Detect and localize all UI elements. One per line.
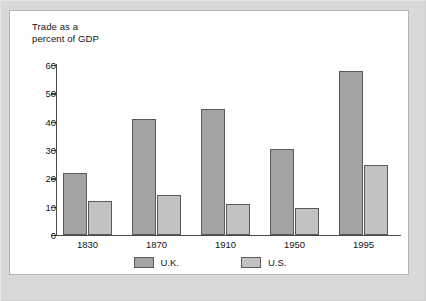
figure-frame: Trade as a percent of GDP 0102030405060 … bbox=[0, 0, 426, 301]
x-tick-label-1995: 1995 bbox=[353, 239, 374, 250]
legend-swatch-icon bbox=[241, 257, 261, 268]
bar-series-layer bbox=[10, 11, 410, 235]
x-tick-label-1910: 1910 bbox=[215, 239, 236, 250]
bar-uk-1995 bbox=[339, 71, 363, 235]
chart-panel: Trade as a percent of GDP 0102030405060 … bbox=[9, 10, 409, 275]
bar-uk-1910 bbox=[201, 109, 225, 235]
x-tick-label-1870: 1870 bbox=[146, 239, 167, 250]
legend-swatch-icon bbox=[134, 257, 154, 268]
legend-entry-uk: U.K. bbox=[134, 257, 179, 268]
chart-legend: U.K.U.S. bbox=[10, 257, 410, 268]
x-tick-label-1830: 1830 bbox=[77, 239, 98, 250]
x-tick-label-1950: 1950 bbox=[284, 239, 305, 250]
legend-label: U.S. bbox=[268, 257, 286, 268]
bar-us-1950 bbox=[295, 208, 319, 235]
bar-us-1995 bbox=[364, 165, 388, 235]
bar-uk-1870 bbox=[132, 119, 156, 235]
plot-area: 0102030405060 18301870191019501995 bbox=[10, 11, 410, 276]
legend-entry-us: U.S. bbox=[241, 257, 286, 268]
bar-us-1910 bbox=[226, 204, 250, 235]
bar-uk-1830 bbox=[63, 173, 87, 235]
legend-label: U.K. bbox=[161, 257, 179, 268]
bar-uk-1950 bbox=[270, 149, 294, 235]
bar-us-1870 bbox=[157, 195, 181, 235]
bar-us-1830 bbox=[88, 201, 112, 235]
